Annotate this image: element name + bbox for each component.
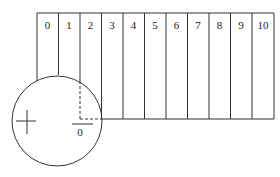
zero-mark-label: 0 bbox=[77, 126, 83, 138]
scale-label: 2 bbox=[88, 19, 94, 31]
scale-label: 4 bbox=[131, 19, 137, 31]
scale-label: 6 bbox=[174, 19, 180, 31]
scale-diagram: 0 1 2 3 4 5 6 7 8 9 10 0 bbox=[0, 0, 280, 177]
scale-label: 7 bbox=[195, 19, 201, 31]
scale-label: 0 bbox=[45, 19, 51, 31]
scale-label: 1 bbox=[66, 19, 72, 31]
scale-label: 5 bbox=[152, 19, 158, 31]
scale-label: 10 bbox=[258, 19, 270, 31]
scale-label: 9 bbox=[238, 19, 244, 31]
scale-label: 3 bbox=[109, 19, 115, 31]
scale-label: 8 bbox=[217, 19, 223, 31]
